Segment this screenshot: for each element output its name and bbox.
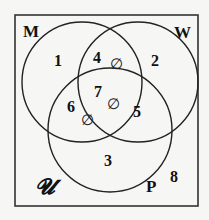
venn-diagram: M W P 1 2 3 4 5 6 7 8 ∅ ∅ ∅ 𝓤 bbox=[0, 0, 209, 220]
region-1: 1 bbox=[54, 52, 62, 69]
set-label-p: P bbox=[146, 177, 156, 196]
region-7: 7 bbox=[94, 83, 102, 100]
empty-set-icon-region-6: ∅ bbox=[81, 111, 94, 129]
empty-set-icon-region-7: ∅ bbox=[107, 95, 120, 113]
region-3: 3 bbox=[104, 152, 112, 169]
region-6: 6 bbox=[67, 98, 75, 115]
universe-label: 𝓤 bbox=[35, 174, 62, 199]
set-label-w: W bbox=[174, 23, 191, 42]
set-label-m: M bbox=[23, 22, 39, 41]
region-4: 4 bbox=[93, 49, 101, 66]
region-5: 5 bbox=[133, 103, 141, 120]
region-8: 8 bbox=[170, 168, 178, 185]
empty-set-icon-region-4: ∅ bbox=[110, 55, 123, 73]
circle-p bbox=[48, 68, 172, 192]
region-2: 2 bbox=[151, 52, 159, 69]
